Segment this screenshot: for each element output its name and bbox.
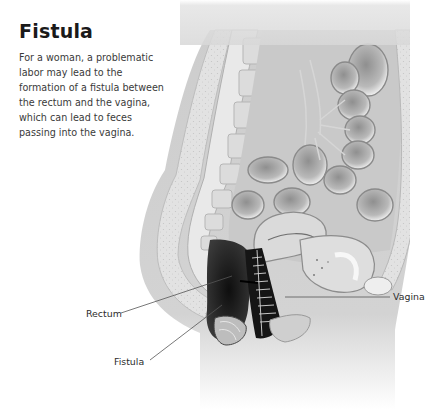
description-line: the rectum and the vagina,	[19, 95, 159, 110]
label-rectum: Rectum	[86, 308, 122, 319]
description-line: which can lead to feces	[19, 110, 159, 125]
label-vagina: Vagina	[393, 291, 425, 302]
description-line: formation of a fistula between	[19, 80, 159, 95]
label-fistula: Fistula	[114, 356, 144, 367]
description-line: passing into the vagina.	[19, 125, 159, 140]
description-line: For a woman, a problematic	[19, 50, 159, 65]
page-title: Fistula	[19, 20, 93, 42]
description-line: labor may lead to the	[19, 65, 159, 80]
page: Fistula For a woman, a problematic labor…	[0, 0, 436, 409]
description-text: For a woman, a problematic labor may lea…	[19, 50, 159, 140]
